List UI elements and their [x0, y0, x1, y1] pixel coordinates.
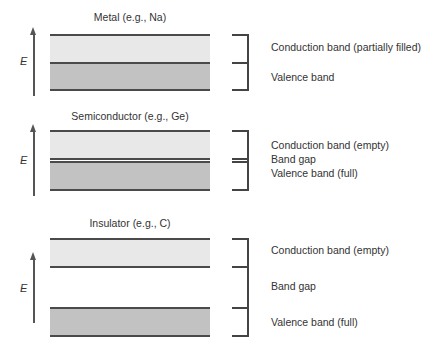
- band-edge-line: [50, 266, 210, 268]
- bracket-tick: [232, 89, 248, 91]
- band-edge-line: [50, 307, 210, 309]
- insulator-conduction-label: Conduction band (empty): [271, 244, 389, 256]
- insulator-title: Insulator (e.g., C): [50, 217, 210, 229]
- bracket-vertical: [247, 34, 249, 91]
- band-edge-line: [50, 335, 210, 337]
- insulator-gap-label: Band gap: [271, 280, 316, 292]
- semiconductor-valence-band: [50, 161, 210, 189]
- band-edge-line: [50, 158, 210, 160]
- semiconductor-title: Semiconductor (e.g., Ge): [50, 110, 210, 122]
- bracket-tick: [232, 238, 248, 240]
- energy-arrow: [33, 130, 35, 196]
- insulator-conduction-band: [50, 238, 210, 266]
- bracket-tick: [232, 266, 248, 268]
- metal-conduction-label: Conduction band (partially filled): [271, 41, 421, 53]
- energy-label: E: [20, 282, 27, 294]
- bracket-tick: [232, 62, 248, 64]
- metal-valence-band: [50, 62, 210, 90]
- insulator-valence-band: [50, 307, 210, 335]
- metal-title: Metal (e.g., Na): [50, 11, 210, 23]
- metal-valence-label: Valence band: [271, 71, 334, 83]
- band-edge-line: [50, 189, 210, 191]
- energy-label: E: [20, 154, 27, 166]
- semiconductor-conduction-label: Conduction band (empty): [271, 139, 389, 151]
- semiconductor-conduction-band: [50, 130, 210, 158]
- bracket-vertical: [247, 130, 249, 191]
- band-edge-line: [50, 89, 210, 91]
- energy-arrow: [33, 33, 35, 96]
- metal-conduction-band: [50, 34, 210, 62]
- bracket-tick: [232, 158, 248, 160]
- bracket-tick: [232, 335, 248, 337]
- energy-arrow: [33, 258, 35, 323]
- energy-label: E: [20, 55, 27, 67]
- bracket-vertical: [247, 238, 249, 337]
- insulator-valence-label: Valence band (full): [271, 316, 358, 328]
- band-edge-line: [50, 34, 210, 36]
- semiconductor-gap-label: Band gap: [271, 153, 316, 165]
- bracket-tick: [232, 161, 248, 163]
- band-edge-line: [50, 62, 210, 64]
- band-edge-line: [50, 161, 210, 163]
- band-edge-line: [50, 130, 210, 132]
- bracket-tick: [232, 307, 248, 309]
- semiconductor-valence-label: Valence band (full): [271, 167, 358, 179]
- band-edge-line: [50, 238, 210, 240]
- bracket-tick: [232, 189, 248, 191]
- bracket-tick: [232, 130, 248, 132]
- bracket-tick: [232, 34, 248, 36]
